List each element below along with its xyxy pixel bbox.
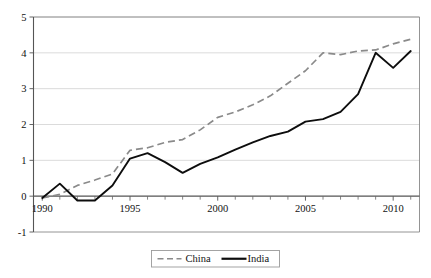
line-chart: -1012345 19901995200020052010 China Indi… bbox=[0, 0, 431, 278]
x-tick-label-2010: 2010 bbox=[383, 203, 404, 214]
y-axis-ticks bbox=[30, 17, 34, 232]
gridlines bbox=[34, 17, 420, 160]
y-axis-tick-labels: -1012345 bbox=[18, 12, 28, 238]
chart-legend: China India bbox=[152, 251, 280, 268]
y-tick-label-5: 5 bbox=[21, 12, 26, 23]
x-tick-label-2000: 2000 bbox=[207, 203, 228, 214]
series-line-india bbox=[42, 51, 410, 200]
y-tick-label-4: 4 bbox=[21, 48, 27, 59]
x-tick-label-1995: 1995 bbox=[120, 203, 141, 214]
x-tick-label-1990: 1990 bbox=[32, 203, 53, 214]
x-axis-tick-labels: 19901995200020052010 bbox=[32, 203, 404, 214]
chart-canvas: -1012345 19901995200020052010 China Indi… bbox=[0, 0, 431, 278]
y-tick-label-3: 3 bbox=[21, 83, 26, 94]
legend-label-india: India bbox=[248, 253, 270, 264]
y-tick-label-1: 1 bbox=[21, 155, 26, 166]
series-line-china bbox=[42, 39, 410, 198]
y-tick-label-2: 2 bbox=[21, 119, 26, 130]
legend-label-china: China bbox=[186, 253, 211, 264]
y-tick-label-0: 0 bbox=[21, 191, 26, 202]
x-tick-label-2005: 2005 bbox=[295, 203, 316, 214]
y-tick-label--1: -1 bbox=[18, 227, 27, 238]
